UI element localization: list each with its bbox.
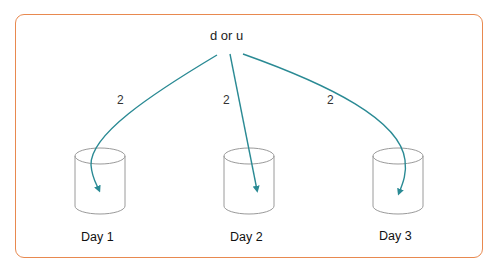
arrow-to-day-2: [230, 54, 257, 190]
database-cylinder-icon: [224, 148, 274, 214]
target-label-day-1: Day 1: [81, 230, 114, 244]
arrow-to-day-1: [91, 55, 217, 190]
arrow-to-day-3: [243, 54, 405, 193]
database-cylinder-icon: [373, 148, 423, 214]
edge-label-day-3: 2: [327, 93, 334, 107]
edge-label-day-1: 2: [117, 93, 124, 107]
edge-label-day-2: 2: [223, 93, 230, 107]
target-label-day-3: Day 3: [379, 229, 412, 243]
database-cylinder-icon: [75, 148, 125, 214]
target-label-day-2: Day 2: [230, 230, 263, 244]
source-node-label: d or u: [210, 28, 243, 43]
